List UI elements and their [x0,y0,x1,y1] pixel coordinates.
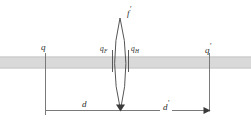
label-image-distance-base: d [163,102,168,112]
label-object-point: q [41,43,46,52]
label-image-point-prime: ′ [210,42,212,51]
diagram-canvas [0,0,251,127]
label-image-distance: d′ [160,100,172,112]
label-principal-point-front: qF [100,45,107,53]
label-image-distance-prime: ′ [168,99,170,108]
label-image-point-base: q [205,45,210,55]
label-principal-rear-subscript: H [135,48,139,54]
optics-diagram: q qF qH q′ f′ d d′ [0,0,251,127]
label-image-point: q′ [205,43,211,55]
label-principal-front-subscript: F [104,48,107,54]
label-focal-length: f′ [127,6,131,18]
label-principal-point-rear: qH [131,45,139,53]
label-object-distance: d [79,100,90,109]
label-focal-length-prime: ′ [130,5,132,14]
